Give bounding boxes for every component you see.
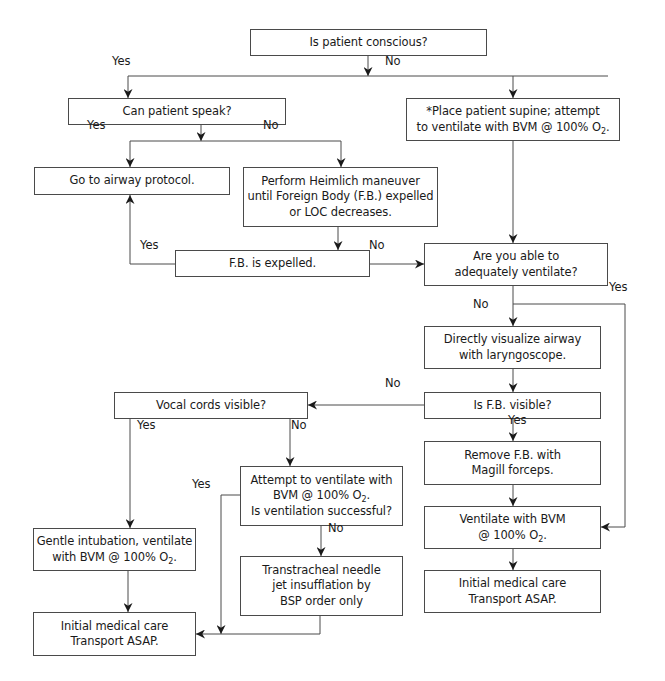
node-text-line: with BVM @ 100% O2. [52, 550, 177, 566]
node-conscious: Is patient conscious? [250, 29, 487, 56]
edge-label-yes: Yes [112, 54, 131, 68]
node-text-line: BSP order only [280, 594, 363, 610]
node-fb-expelled: F.B. is expelled. [175, 250, 370, 277]
node-text-line: jet insufflation by [272, 578, 370, 594]
node-text-line: Vocal cords visible? [156, 398, 266, 414]
node-adequately: Are you able toadequately ventilate? [424, 243, 608, 286]
node-text-line: Attempt to ventilate with [251, 473, 393, 489]
node-text-line: Is F.B. visible? [474, 398, 552, 414]
node-text-line: Magill forceps. [472, 463, 554, 479]
node-text-line: Directly visualize airway [444, 332, 581, 348]
node-text-line: until Foreign Body (F.B.) expelled [247, 189, 433, 205]
edge-fb_expelled-to-airway_protocol [130, 195, 175, 264]
edge-label-no: No [369, 238, 385, 252]
node-text-line: *Place patient supine; attempt [426, 104, 599, 120]
node-text-line: Transtracheal needle [262, 563, 380, 579]
edge-label-yes: Yes [192, 477, 211, 491]
node-text-line: with laryngoscope. [459, 348, 566, 364]
node-text-line: BVM @ 100% O2. [273, 488, 370, 504]
edge-label-no: No [473, 297, 489, 311]
node-attempt: Attempt to ventilate withBVM @ 100% O2.I… [240, 466, 403, 526]
node-text-line: to ventilate with BVM @ 100% O2. [417, 120, 610, 136]
node-text-line: adequately ventilate? [454, 265, 577, 281]
node-text-line: Gentle intubation, ventilate [37, 534, 193, 550]
node-text-line: Transport ASAP. [70, 634, 158, 650]
edge-label-yes: Yes [137, 418, 156, 432]
node-airway-protocol: Go to airway protocol. [34, 167, 230, 195]
node-supine: *Place patient supine; attemptto ventila… [406, 98, 620, 141]
node-transtracheal: Transtracheal needlejet insufflation byB… [240, 556, 403, 616]
node-text-line: Ventilate with BVM [459, 512, 565, 528]
node-initial-left: Initial medical careTransport ASAP. [33, 612, 196, 656]
edge-label-no: No [328, 521, 344, 535]
node-text-line: F.B. is expelled. [229, 256, 316, 272]
node-text-line: Is ventilation successful? [251, 504, 392, 520]
node-vocal: Vocal cords visible? [114, 392, 308, 419]
edge-label-no: No [291, 418, 307, 432]
node-text-line: Is patient conscious? [309, 35, 427, 51]
node-visualize: Directly visualize airwaywith laryngosco… [424, 326, 601, 369]
node-text-line: Remove F.B. with [464, 448, 561, 464]
edge-attempt-to-initial_left [221, 495, 240, 634]
node-text-line: Go to airway protocol. [69, 173, 194, 189]
edge-label-yes: Yes [140, 238, 159, 252]
node-text-line: Are you able to [473, 249, 559, 265]
node-text-line: Perform Heimlich maneuver [261, 174, 420, 190]
edge-label-yes: Yes [87, 118, 106, 132]
node-ventilate-right: Ventilate with BVM@ 100% O2. [424, 506, 601, 549]
edge-label-no: No [385, 54, 401, 68]
node-text-line: Transport ASAP. [468, 592, 556, 608]
node-remove: Remove F.B. withMagill forceps. [424, 441, 601, 485]
edge-label-yes: Yes [508, 413, 527, 427]
node-text-line: @ 100% O2. [478, 528, 547, 544]
edge-label-no: No [263, 118, 279, 132]
node-heimlich: Perform Heimlich maneuveruntil Foreign B… [243, 167, 438, 227]
node-text-line: Can patient speak? [123, 104, 232, 120]
edge-transtracheal-to-initial_left [196, 616, 320, 634]
node-gentle: Gentle intubation, ventilatewith BVM @ 1… [33, 528, 196, 571]
node-text-line: or LOC decreases. [289, 205, 391, 221]
edge-label-no: No [385, 376, 401, 390]
node-initial-right: Initial medical careTransport ASAP. [424, 570, 601, 613]
node-text-line: Initial medical care [61, 619, 168, 635]
edge-label-yes: Yes [609, 280, 628, 294]
node-text-line: Initial medical care [459, 576, 566, 592]
